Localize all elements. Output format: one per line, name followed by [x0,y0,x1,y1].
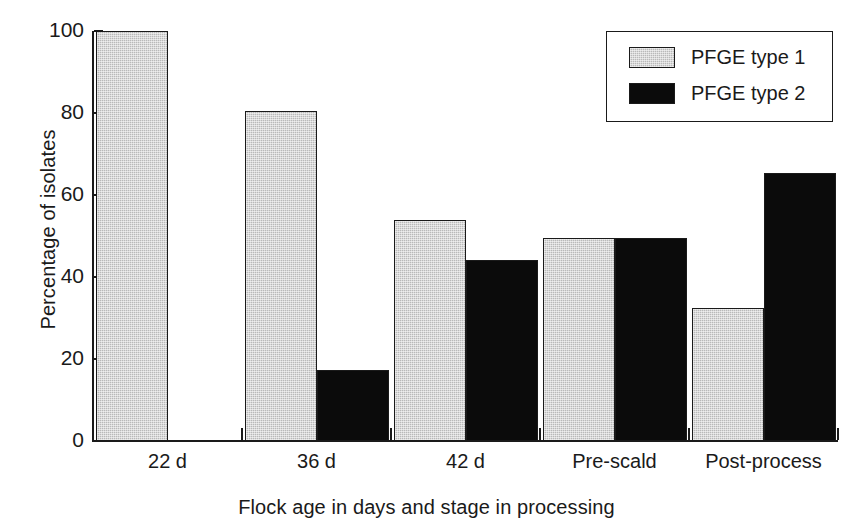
legend-swatch-pfge-type-1 [629,47,675,68]
legend-entry-pfge-type-2: PFGE type 2 [629,82,806,105]
y-tick-label-60: 60 [10,183,84,204]
x-tick-separator-4 [688,428,690,440]
bar-post-process-series-2 [764,173,836,441]
y-tick-label-40: 40 [10,265,84,286]
y-tick-label-0: 0 [10,429,84,450]
bar-42-d-series-2 [466,260,538,441]
y-axis-label: Percentage of isolates [37,90,60,370]
x-axis-label: Flock age in days and stage in processin… [0,496,853,519]
legend: PFGE type 1 PFGE type 2 [606,31,833,122]
x-tick-label-post-process: Post-process [674,450,853,473]
x-tick-end [837,428,839,440]
y-tick-label-20: 20 [10,347,84,368]
x-tick-separator-2 [390,428,392,440]
bar-22-d-series-1 [96,31,168,441]
bar-chart-figure: Percentage of isolates 020406080100 22 d… [0,0,853,531]
legend-label-pfge-type-1: PFGE type 1 [691,46,806,69]
y-axis-line [92,31,94,442]
bar-pre-scald-series-1 [543,238,615,441]
y-tick-label-100: 100 [10,19,84,40]
legend-label-pfge-type-2: PFGE type 2 [691,82,806,105]
bar-post-process-series-1 [692,308,764,441]
x-tick-separator-3 [539,428,541,440]
x-tick-separator-1 [241,428,243,440]
bar-pre-scald-series-2 [615,238,687,441]
legend-entry-pfge-type-1: PFGE type 1 [629,46,806,69]
legend-swatch-pfge-type-2 [629,83,675,104]
y-tick-label-80: 80 [10,101,84,122]
bar-36-d-series-1 [245,111,317,441]
bar-36-d-series-2 [317,370,389,441]
bar-42-d-series-1 [394,220,466,441]
